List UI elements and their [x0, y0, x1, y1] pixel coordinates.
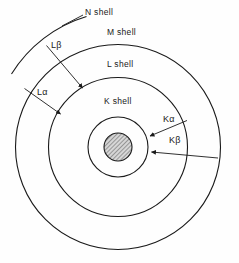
diagram-canvas: [0, 0, 239, 263]
k-shell-label: K shell: [104, 96, 132, 106]
shell-diagram-figure: N shell M shell L shell K shell Lβ Lα Kα…: [0, 0, 239, 263]
k-beta-label: Kβ: [169, 135, 181, 145]
m-shell-label: M shell: [107, 27, 136, 37]
l-alpha-label: Lα: [37, 87, 48, 97]
n-shell-leader-line: [62, 15, 83, 26]
n-shell-label: N shell: [85, 7, 113, 17]
l-shell-label: L shell: [107, 59, 133, 69]
k-beta-arrow: [152, 152, 219, 158]
l-beta-arrow: [47, 46, 83, 89]
l-beta-label: Lβ: [51, 40, 62, 50]
nucleus: [104, 133, 132, 161]
n-shell-arc: [12, 17, 87, 75]
k-alpha-label: Kα: [163, 114, 175, 124]
